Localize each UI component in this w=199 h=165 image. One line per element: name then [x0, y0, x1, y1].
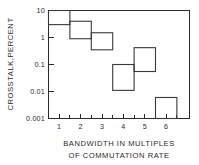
y-tick-label: 10 [37, 6, 45, 15]
x-axis-title-line2: OF COMMUTATION RATE [68, 151, 169, 160]
y-axis-tick-labels: 10 1 0.1 0.01 0.001 [26, 6, 45, 123]
step-box-band-5 [134, 48, 155, 72]
y-tick-label: 0.01 [30, 87, 45, 96]
y-axis-ticks [49, 11, 54, 119]
x-axis-tick-labels: 1 2 3 4 5 6 [57, 122, 168, 131]
x-tick-label: 1 [57, 122, 61, 131]
step-box-band-2 [70, 21, 91, 38]
y-tick-label: 0.1 [34, 60, 45, 69]
y-tick-label: 0.001 [26, 114, 45, 123]
y-axis-title: CROSSTALK,PERCENT [6, 17, 15, 110]
crosstalk-bandwidth-chart: 10 1 0.1 0.01 0.001 1 2 3 [0, 0, 199, 165]
x-tick-label: 2 [78, 122, 82, 131]
step-box-band-3 [91, 33, 112, 50]
x-axis-title-line1: BANDWIDTH IN MULTIPLES [63, 139, 175, 148]
x-tick-label: 4 [121, 122, 125, 131]
y-tick-label: 1 [41, 33, 45, 42]
x-tick-label: 3 [100, 122, 104, 131]
data-step-boxes [49, 11, 177, 119]
x-tick-label: 5 [143, 122, 147, 131]
x-tick-label: 6 [164, 122, 168, 131]
step-box-band-1 [49, 11, 70, 25]
step-box-band-4 [113, 65, 134, 91]
chart-figure: 10 1 0.1 0.01 0.001 1 2 3 [0, 0, 199, 165]
